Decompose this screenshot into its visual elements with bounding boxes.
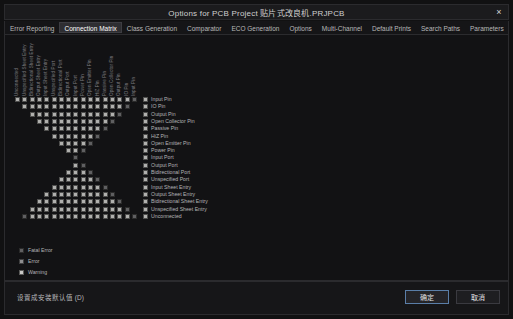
matrix-cell[interactable] (88, 126, 93, 131)
row-severity-swatch[interactable] (143, 192, 148, 197)
matrix-cell[interactable] (117, 207, 122, 212)
set-installation-defaults-button[interactable]: 设置成安装默认值 (D) (17, 292, 84, 302)
matrix-cell[interactable] (59, 199, 64, 204)
matrix-cell[interactable] (30, 104, 35, 109)
tab-search-paths[interactable]: Search Paths (416, 22, 465, 33)
matrix-cell[interactable] (103, 185, 108, 190)
matrix-cell[interactable] (81, 141, 86, 146)
matrix-cell[interactable] (81, 112, 86, 117)
matrix-cell[interactable] (37, 119, 42, 124)
matrix-cell[interactable] (125, 97, 130, 102)
matrix-cell[interactable] (88, 207, 93, 212)
matrix-cell[interactable] (73, 104, 78, 109)
matrix-cell[interactable] (73, 112, 78, 117)
matrix-cell[interactable] (59, 177, 64, 182)
matrix-cell[interactable] (95, 119, 100, 124)
row-severity-swatch[interactable] (143, 163, 148, 168)
matrix-cell[interactable] (73, 155, 78, 160)
matrix-cell[interactable] (95, 199, 100, 204)
matrix-cell[interactable] (37, 112, 42, 117)
matrix-cell[interactable] (73, 141, 78, 146)
matrix-cell[interactable] (81, 170, 86, 175)
matrix-cell[interactable] (81, 104, 86, 109)
matrix-cell[interactable] (30, 112, 35, 117)
tab-class-generation[interactable]: Class Generation (122, 22, 182, 33)
matrix-cell[interactable] (22, 104, 27, 109)
matrix-cell[interactable] (66, 97, 71, 102)
matrix-cell[interactable] (73, 177, 78, 182)
matrix-cell[interactable] (52, 192, 57, 197)
matrix-cell[interactable] (88, 170, 93, 175)
matrix-cell[interactable] (66, 207, 71, 212)
matrix-cell[interactable] (66, 141, 71, 146)
row-severity-swatch[interactable] (143, 185, 148, 190)
matrix-cell[interactable] (81, 163, 86, 168)
row-severity-swatch[interactable] (143, 199, 148, 204)
matrix-cell[interactable] (52, 126, 57, 131)
matrix-cell[interactable] (81, 199, 86, 204)
matrix-cell[interactable] (52, 104, 57, 109)
matrix-cell[interactable] (37, 207, 42, 212)
matrix-cell[interactable] (103, 97, 108, 102)
tab-error-reporting[interactable]: Error Reporting (5, 22, 59, 33)
matrix-cell[interactable] (44, 199, 49, 204)
matrix-cell[interactable] (59, 104, 64, 109)
matrix-cell[interactable] (103, 192, 108, 197)
matrix-cell[interactable] (81, 192, 86, 197)
matrix-cell[interactable] (66, 112, 71, 117)
matrix-cell[interactable] (59, 134, 64, 139)
tab-eco-generation[interactable]: ECO Generation (226, 22, 284, 33)
matrix-cell[interactable] (95, 192, 100, 197)
row-severity-swatch[interactable] (143, 126, 148, 131)
matrix-cell[interactable] (66, 199, 71, 204)
matrix-cell[interactable] (95, 207, 100, 212)
matrix-cell[interactable] (59, 214, 64, 219)
matrix-cell[interactable] (44, 207, 49, 212)
row-severity-swatch[interactable] (143, 207, 148, 212)
connection-matrix-grid[interactable]: Input PinIO PinOutput PinOpen Collector … (5, 35, 509, 281)
matrix-cell[interactable] (103, 104, 108, 109)
row-severity-swatch[interactable] (143, 134, 148, 139)
matrix-cell[interactable] (81, 119, 86, 124)
matrix-cell[interactable] (117, 112, 122, 117)
matrix-cell[interactable] (37, 104, 42, 109)
ok-button[interactable]: 确定 (405, 290, 449, 304)
matrix-cell[interactable] (81, 207, 86, 212)
matrix-cell[interactable] (110, 199, 115, 204)
matrix-cell[interactable] (88, 134, 93, 139)
matrix-cell[interactable] (59, 141, 64, 146)
matrix-cell[interactable] (52, 185, 57, 190)
matrix-cell[interactable] (59, 192, 64, 197)
matrix-cell[interactable] (95, 104, 100, 109)
matrix-cell[interactable] (15, 97, 20, 102)
matrix-cell[interactable] (95, 134, 100, 139)
matrix-cell[interactable] (110, 214, 115, 219)
row-severity-swatch[interactable] (143, 148, 148, 153)
matrix-cell[interactable] (52, 97, 57, 102)
matrix-cell[interactable] (95, 177, 100, 182)
matrix-cell[interactable] (66, 119, 71, 124)
matrix-cell[interactable] (44, 104, 49, 109)
matrix-cell[interactable] (88, 214, 93, 219)
close-icon[interactable]: × (493, 7, 505, 18)
matrix-cell[interactable] (44, 192, 49, 197)
matrix-cell[interactable] (73, 163, 78, 168)
matrix-cell[interactable] (110, 207, 115, 212)
cancel-button[interactable]: 取消 (456, 290, 500, 304)
matrix-cell[interactable] (95, 185, 100, 190)
matrix-cell[interactable] (110, 112, 115, 117)
matrix-cell[interactable] (52, 207, 57, 212)
matrix-cell[interactable] (66, 148, 71, 153)
matrix-cell[interactable] (44, 214, 49, 219)
matrix-cell[interactable] (117, 214, 122, 219)
matrix-cell[interactable] (44, 119, 49, 124)
matrix-cell[interactable] (73, 126, 78, 131)
matrix-cell[interactable] (66, 185, 71, 190)
matrix-cell[interactable] (81, 134, 86, 139)
tab-default-prints[interactable]: Default Prints (367, 22, 416, 33)
matrix-cell[interactable] (117, 104, 122, 109)
matrix-cell[interactable] (30, 97, 35, 102)
matrix-cell[interactable] (103, 112, 108, 117)
matrix-cell[interactable] (88, 104, 93, 109)
matrix-cell[interactable] (73, 148, 78, 153)
